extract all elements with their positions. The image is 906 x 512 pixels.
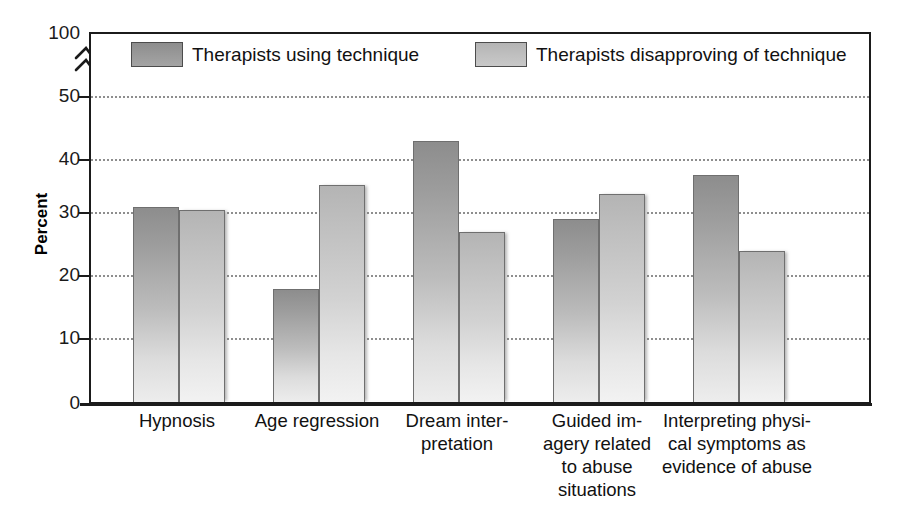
bar-using-0[interactable] — [133, 207, 179, 402]
x-label-4: Interpreting physi-cal symptoms aseviden… — [652, 409, 822, 478]
x-axis-category-labels: HypnosisAge regressionDream inter-pretat… — [89, 409, 871, 512]
x-label-line: evidence of abuse — [652, 455, 822, 478]
gridline-50 — [91, 96, 869, 98]
gridline-40 — [91, 159, 869, 161]
legend-swatch-using — [131, 42, 183, 67]
y-tick-label-50: 50 — [30, 86, 80, 105]
legend-label-disapproving: Therapists disapproving of technique — [536, 44, 847, 66]
bar-disapproving-1[interactable] — [319, 185, 365, 402]
legend-swatch-disapproving — [475, 42, 527, 67]
bar-disapproving-4[interactable] — [739, 251, 785, 402]
y-tick-label-100: 100 — [30, 23, 80, 42]
y-tick-label-30: 30 — [30, 202, 80, 221]
bar-using-4[interactable] — [693, 175, 739, 402]
bar-using-2[interactable] — [413, 141, 459, 402]
bar-disapproving-3[interactable] — [599, 194, 645, 402]
x-label-line: cal symptoms as — [652, 432, 822, 455]
bar-chart: Percent 100 50 40 30 20 10 0 Therapists … — [0, 0, 906, 512]
legend-item-disapproving[interactable]: Therapists disapproving of technique — [475, 42, 847, 67]
bar-using-3[interactable] — [553, 219, 599, 402]
y-tick-label-10: 10 — [30, 328, 80, 347]
bar-using-1[interactable] — [273, 289, 319, 402]
bar-disapproving-2[interactable] — [459, 232, 505, 402]
y-tick-label-20: 20 — [30, 265, 80, 284]
x-label-line: situations — [512, 478, 682, 501]
x-label-line: Interpreting physi- — [652, 409, 822, 432]
legend-label-using: Therapists using technique — [192, 44, 419, 66]
bar-disapproving-0[interactable] — [179, 210, 225, 402]
plot-area — [89, 32, 871, 404]
y-tick-label-40: 40 — [30, 149, 80, 168]
legend-item-using[interactable]: Therapists using technique — [131, 42, 419, 67]
y-tick-label-0: 0 — [30, 393, 80, 412]
